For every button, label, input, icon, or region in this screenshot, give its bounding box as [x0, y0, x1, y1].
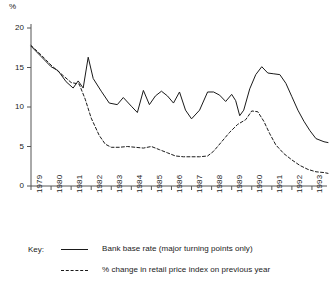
- x-axis-tick-label: 1983: [115, 175, 124, 193]
- plot-area: [0, 0, 335, 285]
- x-axis-tick-label: 1990: [255, 175, 264, 193]
- series-line-retail-price-index: [31, 45, 328, 173]
- x-axis-tick-label: 1993: [315, 175, 324, 193]
- x-axis-tick-label: 1989: [235, 175, 244, 193]
- x-axis-tick-label: 1991: [275, 175, 284, 193]
- x-axis-tick-label: 1988: [215, 175, 224, 193]
- x-axis-tick-label: 1985: [155, 175, 164, 193]
- series-line-bank-base-rate: [31, 46, 328, 142]
- chart-figure: % 05101520 19791980198119821983198419851…: [0, 0, 335, 285]
- x-axis-tick-label: 1979: [35, 175, 44, 193]
- y-axis-tick-label: 5: [8, 142, 24, 151]
- x-axis-tick-label: 1981: [75, 175, 84, 193]
- x-axis-tick-label: 1986: [175, 175, 184, 193]
- y-axis-tick-label: 10: [8, 102, 24, 111]
- legend-label-bank-base-rate: Bank base rate (major turning points onl…: [102, 244, 253, 253]
- legend-swatch-dashed-line: [61, 270, 88, 271]
- y-axis-tick-label: 15: [8, 63, 24, 72]
- x-axis-tick-label: 1987: [195, 175, 204, 193]
- x-axis-tick-label: 1992: [295, 175, 304, 193]
- legend-title: Key:: [28, 245, 44, 254]
- x-axis-tick-label: 1984: [135, 175, 144, 193]
- legend-label-retail-price-index: % change in retail price index on previo…: [102, 265, 270, 274]
- legend-swatch-solid-line: [61, 249, 88, 250]
- x-axis-tick-label: 1980: [55, 175, 64, 193]
- y-axis-tick-label: 20: [8, 23, 24, 32]
- y-axis-tick-label: 0: [8, 181, 24, 190]
- x-axis-tick-label: 1982: [95, 175, 104, 193]
